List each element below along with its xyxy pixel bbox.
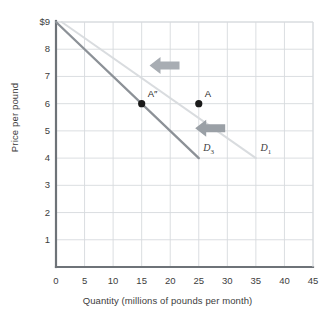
data-point — [195, 100, 202, 107]
curve-label-d1: D1 — [260, 142, 271, 156]
x-tick-label: 20 — [157, 275, 183, 286]
curve-label-text: D — [260, 142, 267, 153]
data-point-label: A — [205, 88, 211, 99]
curve-label-text: D — [203, 142, 210, 153]
y-tick-label: 8 — [24, 43, 50, 54]
curve-label-subscript: 3 — [211, 148, 215, 156]
y-tick-label: 7 — [24, 70, 50, 81]
y-tick-label: 5 — [24, 125, 50, 136]
x-tick-label: 35 — [243, 275, 269, 286]
y-tick-label: $9 — [24, 16, 50, 27]
curve-label-subscript: 1 — [268, 148, 272, 156]
x-tick-label: 10 — [100, 275, 126, 286]
x-tick-label: 45 — [300, 275, 326, 286]
y-axis-title: Price per pound — [9, 58, 20, 178]
y-tick-label: 6 — [24, 98, 50, 109]
x-tick-label: 5 — [72, 275, 98, 286]
chart-figure: Price per pound Quantity (millions of po… — [0, 0, 335, 318]
x-axis-title: Quantity (millions of pounds per month) — [0, 295, 335, 306]
y-tick-label: 1 — [24, 234, 50, 245]
x-tick-label: 40 — [271, 275, 297, 286]
curve-label-d3: D3 — [203, 142, 214, 156]
data-point — [138, 100, 145, 107]
y-tick-label: 3 — [24, 179, 50, 190]
x-tick-label: 15 — [129, 275, 155, 286]
x-tick-label: 0 — [43, 275, 69, 286]
y-tick-label: 2 — [24, 207, 50, 218]
y-tick-label: 4 — [24, 152, 50, 163]
data-point-label: A″ — [148, 88, 158, 99]
chart-canvas — [0, 0, 335, 318]
x-tick-label: 30 — [214, 275, 240, 286]
x-tick-label: 25 — [186, 275, 212, 286]
